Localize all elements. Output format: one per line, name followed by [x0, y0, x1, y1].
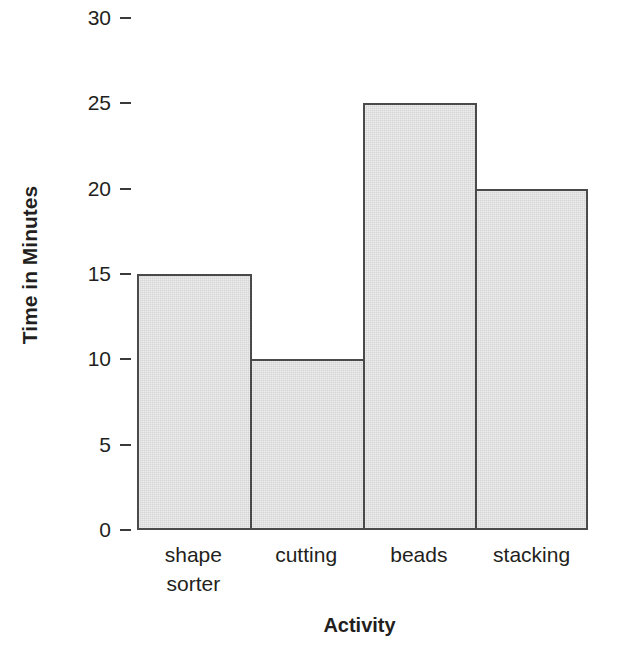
x-category-label-line: beads — [363, 540, 476, 569]
x-category-label-stacking: stacking — [475, 540, 588, 569]
bar-cutting[interactable] — [250, 359, 365, 530]
y-tick-mark-icon — [120, 529, 131, 531]
x-category-label-line: cutting — [250, 540, 363, 569]
y-tick-label: 30 — [88, 5, 111, 31]
y-tick-30: 30 — [52, 5, 134, 31]
bar-shape-sorter[interactable] — [137, 274, 252, 530]
y-tick-5: 5 — [52, 432, 134, 458]
y-tick-mark-icon — [120, 102, 131, 104]
plot-area — [137, 18, 588, 530]
y-tick-mark-icon — [120, 358, 131, 360]
y-tick-label: 5 — [99, 432, 111, 458]
y-tick-0: 0 — [52, 517, 134, 543]
x-category-label-cutting: cutting — [250, 540, 363, 569]
y-tick-label: 15 — [88, 261, 111, 287]
y-axis-title-text: Time in Minutes — [18, 186, 42, 344]
y-tick-15: 15 — [52, 261, 134, 287]
bar-chart: Time in Minutes 051015202530 shapesorter… — [0, 0, 623, 657]
x-category-label-beads: beads — [363, 540, 476, 569]
y-tick-label: 0 — [99, 517, 111, 543]
x-category-label-line: stacking — [475, 540, 588, 569]
x-axis-title-text: Activity — [323, 614, 395, 636]
y-tick-20: 20 — [52, 176, 134, 202]
y-tick-mark-icon — [120, 444, 131, 446]
x-category-label-line: shape — [137, 540, 250, 569]
y-tick-25: 25 — [52, 90, 134, 116]
y-axis-title: Time in Minutes — [0, 0, 60, 530]
y-tick-label: 25 — [88, 90, 111, 116]
y-tick-10: 10 — [52, 346, 134, 372]
bar-stacking[interactable] — [475, 189, 588, 530]
y-tick-label: 20 — [88, 176, 111, 202]
x-axis-title: Activity — [0, 614, 623, 637]
x-category-label-shape-sorter: shapesorter — [137, 540, 250, 598]
y-tick-mark-icon — [120, 188, 131, 190]
y-tick-mark-icon — [120, 273, 131, 275]
bar-beads[interactable] — [363, 103, 478, 530]
y-tick-mark-icon — [120, 17, 131, 19]
x-category-label-line: sorter — [137, 569, 250, 598]
y-tick-label: 10 — [88, 346, 111, 372]
bars-layer — [137, 18, 588, 530]
